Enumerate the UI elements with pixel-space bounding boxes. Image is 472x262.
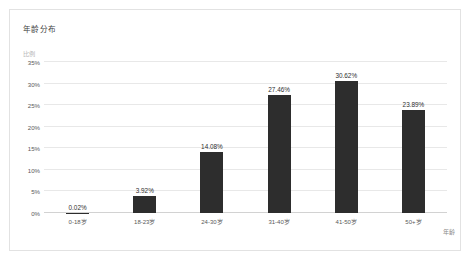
bar-slot: 27.46%31-40岁 xyxy=(246,62,313,213)
y-axis-title: 比例 xyxy=(23,49,35,58)
plot-area: 0%5%10%15%20%25%30%35% 0.02%0-18岁3.92%18… xyxy=(44,62,447,213)
y-tick-label: 5% xyxy=(31,188,40,195)
x-category-label: 0-18岁 xyxy=(69,217,87,226)
screenshot-root: 年龄分布 比例 0%5%10%15%20%25%30%35% 0.02%0-18… xyxy=(0,0,472,262)
bar[interactable]: 14.08% xyxy=(200,152,223,213)
y-tick-label: 10% xyxy=(28,166,40,173)
bar-slot: 23.89%50+岁 xyxy=(380,62,447,213)
y-tick-label: 0% xyxy=(31,210,40,217)
bar-slot: 14.08%24-30岁 xyxy=(178,62,245,213)
x-category-label: 31-40岁 xyxy=(268,217,289,226)
y-tick-label: 15% xyxy=(28,145,40,152)
x-category-label: 18-23岁 xyxy=(134,217,155,226)
bar-value-label: 30.62% xyxy=(335,72,357,79)
bar-value-label: 23.89% xyxy=(403,101,425,108)
y-tick-label: 20% xyxy=(28,123,40,130)
x-axis-title: 年龄 xyxy=(443,227,455,236)
x-category-label: 41-50岁 xyxy=(336,217,357,226)
bar-value-label: 14.08% xyxy=(201,143,223,150)
x-category-label: 24-30岁 xyxy=(201,217,222,226)
bar-value-label: 27.46% xyxy=(268,86,290,93)
bar-slot: 0.02%0-18岁 xyxy=(44,62,111,213)
bar[interactable]: 3.92% xyxy=(133,196,156,213)
chart-title: 年龄分布 xyxy=(23,23,56,34)
bar[interactable]: 30.62% xyxy=(335,81,358,213)
bar-value-label: 3.92% xyxy=(136,187,154,194)
y-tick-label: 30% xyxy=(28,80,40,87)
bars-group: 0.02%0-18岁3.92%18-23岁14.08%24-30岁27.46%3… xyxy=(44,62,447,213)
bar[interactable]: 27.46% xyxy=(268,95,291,213)
x-category-label: 50+岁 xyxy=(405,217,421,226)
y-tick-label: 35% xyxy=(28,59,40,66)
bar-slot: 30.62%41-50岁 xyxy=(313,62,380,213)
bar[interactable]: 23.89% xyxy=(402,110,425,213)
bar-value-label: 0.02% xyxy=(69,204,87,211)
bar-slot: 3.92%18-23岁 xyxy=(111,62,178,213)
chart-card: 年龄分布 比例 0%5%10%15%20%25%30%35% 0.02%0-18… xyxy=(9,9,461,251)
y-tick-label: 25% xyxy=(28,102,40,109)
